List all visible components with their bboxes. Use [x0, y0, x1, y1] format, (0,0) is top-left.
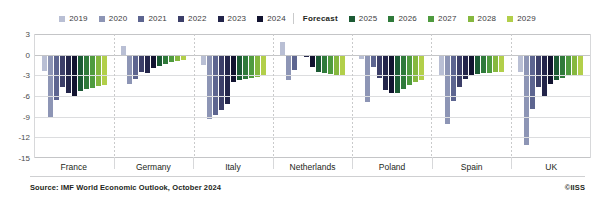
legend-item-label: 2028	[478, 15, 497, 23]
bar-fill	[524, 55, 529, 145]
bar-fill	[328, 55, 333, 74]
legend-item-2019[interactable]: 2019	[59, 15, 88, 23]
plot-canvas	[34, 34, 591, 158]
bar-fill	[389, 55, 394, 94]
legend-swatch-icon	[99, 16, 105, 22]
gridline	[35, 75, 590, 76]
bar-fill	[96, 55, 101, 87]
legend-item-label: 2021	[148, 15, 167, 23]
gridline	[35, 55, 590, 56]
x-axis-label-text: France	[61, 162, 87, 172]
x-axis-tick-divider	[432, 157, 433, 169]
x-axis-tick-divider	[114, 157, 115, 169]
x-axis-tick-divider	[352, 157, 353, 169]
y-axis-tick-label: 3	[26, 30, 30, 39]
x-axis-label-text: Netherlands	[290, 162, 336, 172]
bar-fill	[469, 55, 474, 76]
x-axis-label-text: Spain	[461, 162, 483, 172]
bar-fill	[578, 55, 583, 75]
bar-fill	[121, 46, 126, 55]
legend-item-2024[interactable]: 2024	[257, 15, 286, 23]
legend-swatch-icon	[218, 16, 224, 22]
bar-fill	[413, 55, 418, 83]
plot-area: 30-3-6-9-12-15	[0, 34, 595, 158]
bar-fill	[201, 55, 206, 65]
group-separator	[352, 34, 353, 158]
x-axis-tick-divider	[193, 157, 194, 169]
bar-fill	[219, 55, 224, 111]
bar-fill	[42, 55, 47, 72]
bar-fill	[151, 55, 156, 69]
y-axis-tick-label: -12	[18, 133, 30, 142]
bar-fill	[322, 55, 327, 73]
y-axis-tick-label: 0	[26, 50, 30, 59]
legend-item-label: 2019	[69, 15, 88, 23]
bar-fill	[261, 55, 266, 76]
x-axis-tick-divider	[511, 157, 512, 169]
bar-fill	[487, 55, 492, 73]
legend-item-2028[interactable]: 2028	[468, 15, 497, 23]
legend-swatch-icon	[507, 16, 513, 22]
legend-item-2021[interactable]: 2021	[138, 15, 167, 23]
gridline	[35, 34, 590, 35]
bar-fill	[401, 55, 406, 89]
bar-fill	[213, 55, 218, 115]
legend-item-2023[interactable]: 2023	[218, 15, 247, 23]
legend-item-2029[interactable]: 2029	[507, 15, 536, 23]
bar-fill	[84, 55, 89, 89]
bar-fill	[475, 55, 480, 74]
bar-fill	[518, 55, 523, 72]
legend-item-2020[interactable]: 2020	[99, 15, 128, 23]
legend-swatch-icon	[59, 16, 65, 22]
bar-fill	[451, 55, 456, 101]
bar-fill	[439, 55, 444, 76]
legend-item-2026[interactable]: 2026	[388, 15, 417, 23]
bar-fill	[334, 55, 339, 75]
bar-fill	[316, 55, 321, 72]
legend-item-2027[interactable]: 2027	[428, 15, 457, 23]
legend-history-group: 201920202021202220232024	[59, 15, 286, 23]
chart-legend: 201920202021202220232024 Forecast 202520…	[0, 13, 595, 24]
legend-item-label: 2026	[398, 15, 417, 23]
bar-fill	[548, 55, 553, 85]
bar-fill	[457, 55, 462, 87]
legend-item-2025[interactable]: 2025	[349, 15, 378, 23]
bar-fill	[169, 55, 174, 63]
bar-fill	[340, 55, 345, 76]
copyright-credit: ©IISS	[565, 183, 585, 192]
bar-fill	[163, 55, 168, 64]
bar-fill	[407, 55, 412, 85]
bar-fill	[371, 55, 376, 67]
x-axis-label-netherlands: Netherlands	[273, 160, 353, 174]
legend-item-2022[interactable]: 2022	[178, 15, 207, 23]
bar-fill	[66, 55, 71, 93]
bar-fill	[530, 55, 535, 109]
legend-swatch-icon	[428, 16, 434, 22]
group-separator	[431, 34, 432, 158]
bar-fill	[292, 55, 297, 70]
y-axis-tick-label: -9	[23, 112, 30, 121]
x-axis-label-france: France	[34, 160, 114, 174]
x-axis-label-uk: UK	[511, 160, 591, 174]
group-separator	[511, 34, 512, 158]
legend-item-label: 2027	[438, 15, 457, 23]
x-axis-labels: FranceGermanyItalyNetherlandsPolandSpain…	[34, 160, 591, 174]
bar-fill	[445, 55, 450, 125]
bar-fill	[481, 55, 486, 74]
bar-fill	[90, 55, 95, 88]
y-axis: 30-3-6-9-12-15	[0, 34, 34, 158]
x-axis-label-text: UK	[545, 162, 557, 172]
x-axis-label-text: Poland	[379, 162, 405, 172]
gridline	[35, 117, 590, 118]
y-axis-tick-label: -15	[18, 154, 30, 163]
bar-fill	[207, 55, 212, 120]
chart-footer: Source: IMF World Economic Outlook, Octo…	[30, 180, 585, 194]
source-note: Source: IMF World Economic Outlook, Octo…	[30, 183, 221, 192]
gridline	[35, 157, 590, 158]
x-axis-label-text: Germany	[136, 162, 171, 172]
legend-forecast-group: Forecast 20252026202720282029	[303, 14, 536, 23]
bar-fill	[127, 55, 132, 85]
gridline	[35, 137, 590, 138]
y-axis-tick-label: -6	[23, 92, 30, 101]
legend-swatch-icon	[388, 16, 394, 22]
